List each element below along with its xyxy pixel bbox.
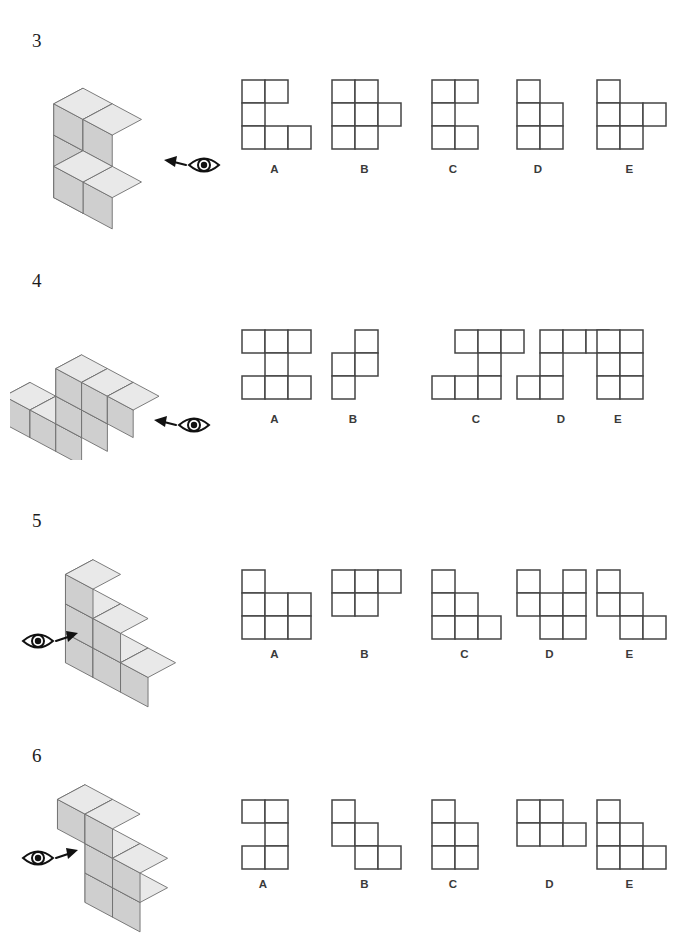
question-block-6: 6ABCDE xyxy=(0,745,699,935)
q3-option-b[interactable] xyxy=(330,78,403,151)
question-block-3: 3ABCDE xyxy=(0,30,699,260)
cube-figure-5 xyxy=(15,528,230,708)
q3-option-d[interactable] xyxy=(515,78,565,151)
q6-option-b[interactable] xyxy=(330,798,403,871)
cube-figure-3 xyxy=(25,52,235,237)
viewpoint-eye-icon xyxy=(20,628,82,654)
q3-option-c[interactable] xyxy=(430,78,480,151)
q4-option-d-label: D xyxy=(515,413,607,425)
q6-option-c[interactable] xyxy=(430,798,480,871)
q4-option-b-label: B xyxy=(330,413,376,425)
q5-option-d[interactable] xyxy=(515,568,588,641)
question-block-5: 5ABCDE xyxy=(0,510,699,740)
q6-option-d-label: D xyxy=(515,878,584,890)
q5-option-d-label: D xyxy=(515,648,584,660)
q3-option-a[interactable] xyxy=(240,78,313,151)
q3-option-e-label: E xyxy=(595,163,664,175)
viewpoint-eye-icon xyxy=(160,152,222,178)
q5-option-a-label: A xyxy=(240,648,309,660)
q4-option-b[interactable] xyxy=(330,328,380,401)
q5-option-c[interactable] xyxy=(430,568,503,641)
q4-option-c-label: C xyxy=(430,413,522,425)
worksheet-page: 3ABCDE4ABCDE5ABCDE6ABCDE xyxy=(0,0,699,942)
q5-option-a[interactable] xyxy=(240,568,313,641)
q3-option-b-label: B xyxy=(330,163,399,175)
question-block-4: 4ABCDE xyxy=(0,270,699,500)
q5-option-e-label: E xyxy=(595,648,664,660)
q5-option-b-label: B xyxy=(330,648,399,660)
q6-option-a[interactable] xyxy=(240,798,290,871)
q3-option-e[interactable] xyxy=(595,78,668,151)
q6-option-c-label: C xyxy=(430,878,476,890)
q4-option-e-label: E xyxy=(595,413,641,425)
q5-option-c-label: C xyxy=(430,648,499,660)
q4-option-c[interactable] xyxy=(430,328,526,401)
q4-option-a-label: A xyxy=(240,413,309,425)
question-number: 3 xyxy=(32,30,42,52)
q6-option-b-label: B xyxy=(330,878,399,890)
q4-option-a[interactable] xyxy=(240,328,313,401)
viewpoint-eye-icon xyxy=(150,412,212,438)
q4-option-e[interactable] xyxy=(595,328,645,401)
q5-option-e[interactable] xyxy=(595,568,668,641)
q6-option-e-label: E xyxy=(595,878,664,890)
q3-option-a-label: A xyxy=(240,163,309,175)
q3-option-d-label: D xyxy=(515,163,561,175)
q5-option-b[interactable] xyxy=(330,568,403,618)
q6-option-a-label: A xyxy=(240,878,286,890)
q3-option-c-label: C xyxy=(430,163,476,175)
q6-option-d[interactable] xyxy=(515,798,588,848)
q6-option-e[interactable] xyxy=(595,798,668,871)
viewpoint-eye-icon xyxy=(20,845,82,871)
